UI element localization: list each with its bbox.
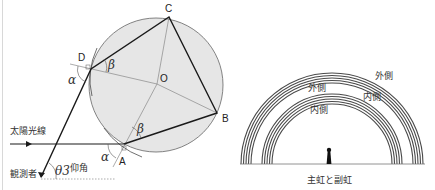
theta-angle-label: θ3 xyxy=(55,164,70,178)
primary-inner-label: 内側 xyxy=(310,104,328,115)
arrow-right-icon xyxy=(26,141,32,147)
alpha-angle-label-a: α xyxy=(101,150,109,164)
alpha-angle-label-d: α xyxy=(68,73,76,87)
point-d-label: D xyxy=(78,52,85,63)
primary-outer-label: 外側 xyxy=(308,82,326,93)
secondary-outer-label: 外側 xyxy=(375,70,393,81)
beta-angle-label-a: β xyxy=(136,122,144,136)
rainbow-caption: 主虹と副虹 xyxy=(307,174,352,185)
rainbow-arcs xyxy=(241,73,423,164)
point-a-label: A xyxy=(119,156,126,167)
secondary-inner-label: 内側 xyxy=(363,91,381,102)
point-c-label: C xyxy=(165,3,172,14)
elevation-label: 仰角 xyxy=(70,162,88,173)
arrow-down-icon xyxy=(38,172,45,178)
rainbow-diagram: C D O B A α β β α θ3 太陽光線 観測者 仰角 xyxy=(0,0,435,190)
observer-figure xyxy=(327,148,332,164)
beta-angle-label-d: β xyxy=(107,58,115,72)
sunlight-label: 太陽光線 xyxy=(10,125,46,136)
raindrop-diagram: C D O B A α β β α θ3 太陽光線 観測者 仰角 xyxy=(10,3,229,179)
point-b-label: B xyxy=(222,113,229,124)
primary-rainbow xyxy=(262,94,402,164)
observer-label: 観測者 xyxy=(10,168,37,179)
point-o-label: O xyxy=(160,73,168,84)
